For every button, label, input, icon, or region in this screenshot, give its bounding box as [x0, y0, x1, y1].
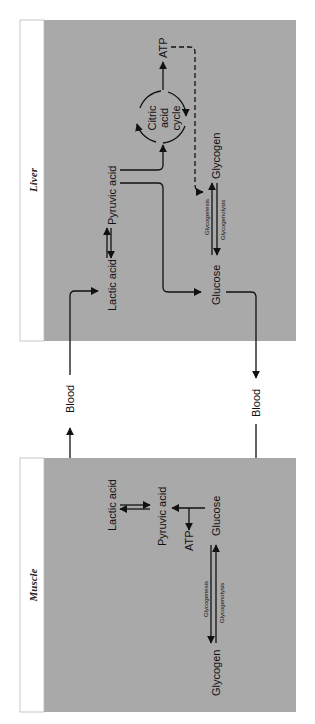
citric-label-line1: Citric	[146, 105, 158, 131]
citric-label-line3: cycle	[170, 105, 182, 130]
muscle-title: Muscle	[27, 568, 39, 602]
citric-label-line2: acid	[158, 108, 170, 128]
liver-pyruvic-acid-label: Pyruvic acid	[106, 166, 118, 225]
liver-glycogen-label: Glycogen	[210, 133, 222, 179]
blood-to-muscle-label: Blood	[250, 389, 262, 417]
muscle-glycogenolysis-label: Glycogenolysis	[219, 583, 225, 623]
muscle-panel: Muscle Lactic acid Pyruvic acid ATP Gluc…	[20, 458, 296, 712]
liver-glucose-label: Glucose	[210, 265, 222, 305]
muscle-pyruvic-acid-label: Pyruvic acid	[156, 487, 168, 546]
muscle-lactic-acid-label: Lactic acid	[106, 479, 118, 531]
blood-to-liver-label: Blood	[64, 385, 76, 413]
cori-cycle-diagram: Liver Pyruvic acid Lactic acid Citric ac…	[0, 0, 315, 724]
liver-atp-label: ATP	[157, 37, 169, 58]
muscle-atp-label: ATP	[183, 530, 195, 551]
liver-title: Liver	[27, 167, 39, 193]
liver-glycogenesis-label: Glycogenesis	[204, 199, 210, 235]
muscle-glycogenesis-label: Glycogenesis	[203, 581, 209, 617]
muscle-glycogen-label: Glycogen	[210, 650, 222, 696]
liver-lactic-acid-label: Lactic acid	[106, 259, 118, 311]
liver-glycogenolysis-label: Glycogenolysis	[220, 200, 226, 240]
muscle-glucose-label: Glucose	[210, 496, 222, 536]
